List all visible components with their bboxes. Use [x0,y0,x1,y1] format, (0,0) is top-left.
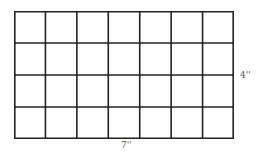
width-label: 7'' [121,141,132,150]
height-label: 4'' [240,71,251,80]
rectangle-grid [14,11,234,139]
